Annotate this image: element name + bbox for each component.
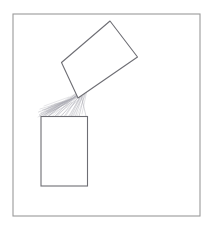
upright-rectangle: [41, 117, 88, 187]
sketch-canvas: Hand-drawn sketch of a tilted box pourin…: [0, 0, 213, 228]
sketch-drawing: [0, 0, 213, 228]
